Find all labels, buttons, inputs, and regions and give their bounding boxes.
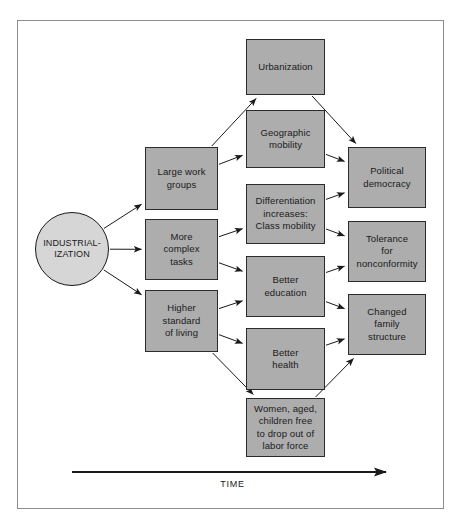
- node-better-health: Better health: [246, 328, 325, 390]
- node-better-education: Better education: [246, 256, 325, 317]
- node-geographic-mobility: Geographic mobility: [246, 110, 325, 168]
- node-political-democracy: Political democracy: [348, 147, 426, 208]
- node-urbanization: Urbanization: [246, 39, 325, 95]
- node-women-aged-children-free: Women, aged, children free to drop out o…: [246, 398, 325, 457]
- node-changed-family-structure: Changed family structure: [348, 294, 426, 355]
- node-industrialization: INDUSTRIAL- IZATION: [35, 212, 109, 286]
- node-tolerance-for-nonconformity: Tolerance for nonconformity: [348, 221, 426, 282]
- node-large-work-groups: Large work groups: [145, 147, 218, 210]
- node-higher-standard-of-living: Higher standard of living: [145, 290, 218, 352]
- node-more-complex-tasks: More complex tasks: [145, 219, 218, 280]
- time-axis-label: TIME: [0, 479, 465, 489]
- diagram-canvas: INDUSTRIAL- IZATIONLarge work groupsMore…: [0, 0, 465, 525]
- node-differentiation-class-mobility: Differentiation increases: Class mobilit…: [246, 184, 325, 244]
